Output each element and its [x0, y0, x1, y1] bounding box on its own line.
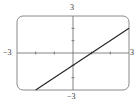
x-max-label: 3: [130, 49, 134, 57]
x-min-label: −3: [3, 49, 12, 57]
plotted-line: [36, 28, 129, 90]
y-max-label: 3: [70, 4, 74, 12]
y-min-label: −3: [67, 93, 76, 101]
graph-viewport: [0, 0, 136, 105]
